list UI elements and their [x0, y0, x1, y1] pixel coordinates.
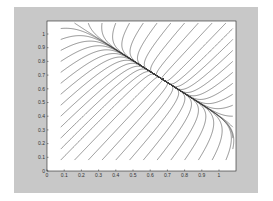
y-tick-label: 0.7	[38, 72, 45, 78]
y-tick-label: 0.8	[38, 58, 45, 64]
x-tick-label: 0	[46, 172, 49, 178]
x-tick-label: 0.7	[164, 172, 171, 178]
y-tick-label: 0.4	[38, 113, 45, 119]
x-tick-label: 0.2	[78, 172, 85, 178]
y-tick-label: 0.1	[38, 154, 45, 160]
y-tick-label: 0.3	[38, 127, 45, 133]
y-tick-label: 0.6	[38, 86, 45, 92]
y-tick-label: 0.5	[38, 99, 45, 105]
phase-portrait-chart: 00.10.20.30.40.50.60.70.80.91 00.10.20.3…	[0, 0, 273, 201]
x-tick-label: 0.8	[181, 172, 188, 178]
plot-area	[47, 21, 236, 171]
x-tick-label: 0.1	[61, 172, 68, 178]
x-tick-label: 0.6	[147, 172, 154, 178]
y-tick-label: 0.2	[38, 140, 45, 146]
x-tick-label: 0.3	[95, 172, 102, 178]
x-tick-label: 0.5	[130, 172, 137, 178]
y-tick-label: 0	[42, 168, 45, 174]
x-tick-label: 1	[218, 172, 221, 178]
y-tick-label: 0.9	[38, 44, 45, 50]
x-tick-label: 0.9	[198, 172, 205, 178]
x-tick-label: 0.4	[112, 172, 119, 178]
y-tick-label: 1	[42, 31, 45, 37]
